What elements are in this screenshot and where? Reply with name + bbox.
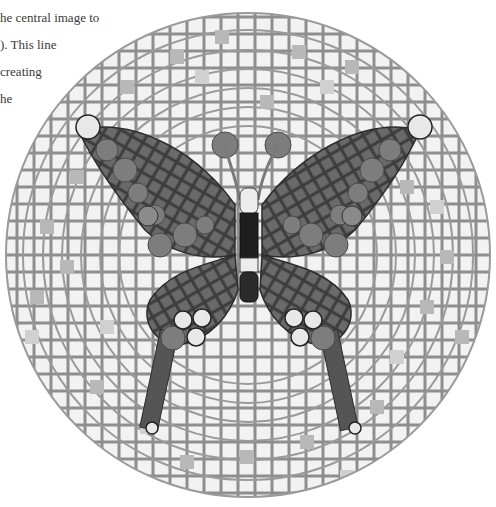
butterfly-mosaic-image	[0, 0, 496, 507]
